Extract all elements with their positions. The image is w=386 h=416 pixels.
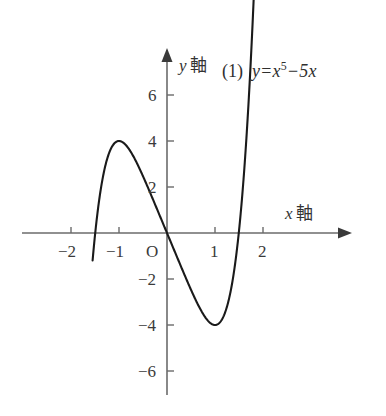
y-axis-label-variable: y [179,56,190,75]
y-tick-label--2: −2 [138,271,156,288]
y-axis-label-word: 軸 [190,56,207,75]
x-axis-label-variable: x [285,204,296,223]
y-tick-label--6: −6 [138,363,156,380]
curve-y-equals-x5-minus-5x [93,0,256,325]
equation-minus-sign: − [287,61,299,81]
equation-exponent: 5 [281,59,287,73]
y-tick-label-4: 4 [148,133,157,150]
equation-equals-sign: = [260,61,272,81]
x-tick-label-2: 2 [258,243,267,260]
origin-label: O [146,243,158,260]
equation-base: x [273,61,281,81]
x-tick-label--1: −1 [106,243,124,260]
x-axis-label: x軸 [285,205,313,222]
annotation-index-label: (1) [222,62,243,80]
y-tick-label-2: 2 [148,179,157,196]
y-tick-label--4: −4 [138,317,156,334]
x-axis-arrowhead [338,228,352,239]
x-axis [22,227,352,239]
graph-figure: −2 −1 1 2 O 6 4 2 −2 −4 −6 y軸 x軸 (1) y=x… [0,0,386,416]
equation-lhs: y [252,61,260,81]
x-tick-label-1: 1 [210,243,219,260]
y-axis-label: y軸 [179,57,207,74]
equation-annotation: (1) y=x5−5x [222,62,317,80]
y-tick-label-6: 6 [148,87,157,104]
equation-tail: 5x [299,61,316,81]
x-tick-label--2: −2 [58,243,76,260]
y-axis [162,48,175,395]
x-axis-label-word: 軸 [296,204,313,223]
equation-text: y=x5−5x [252,62,317,80]
y-axis-arrowhead [162,48,173,62]
